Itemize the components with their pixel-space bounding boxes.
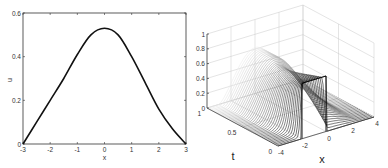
x-tick-label: 3 xyxy=(184,146,188,153)
y-tick-label: 0.4 xyxy=(12,53,21,60)
t-tick-label: 0.5 xyxy=(227,129,236,136)
left-line-plot: -3-2-10123 00.20.40.6 x u xyxy=(6,10,188,162)
mesh-line xyxy=(276,77,372,145)
x-tick-label: 1 xyxy=(130,146,134,153)
x-tick-label: 0 xyxy=(103,146,107,153)
z-tick-label: 0.8 xyxy=(196,45,205,52)
t-tick-label: 1 xyxy=(197,110,201,117)
x-tick-label: -2 xyxy=(302,142,308,149)
t-tick-label: 0 xyxy=(268,148,272,155)
x-tick-label: -1 xyxy=(74,146,80,153)
x-tick-label: -2 xyxy=(47,146,53,153)
x-tick-label: -3 xyxy=(20,146,26,153)
x-tick-label: 2 xyxy=(157,146,161,153)
z-tick-label: 0.6 xyxy=(196,60,205,67)
x-axis-label: x xyxy=(319,153,325,165)
left-x-label: x xyxy=(103,154,107,161)
x-tick-label: 2 xyxy=(351,127,355,134)
y-tick-label: 0 xyxy=(17,141,21,148)
right-3d-ticks: 00.20.40.60.8100.51-4-2024 xyxy=(196,31,379,157)
left-axes-box xyxy=(23,13,186,144)
z-tick-label: 0.2 xyxy=(196,90,205,97)
right-surface-plot: 00.20.40.60.8100.51-4-2024 t x xyxy=(196,5,379,165)
figure: -3-2-10123 00.20.40.6 x u 00.20.40.60.81… xyxy=(0,0,388,168)
t-axis-label: t xyxy=(231,150,234,162)
y-tick-label: 0.2 xyxy=(12,97,21,104)
x-tick-label: 0 xyxy=(327,135,331,142)
z-tick-label: 0.4 xyxy=(196,75,205,82)
left-y-label: u xyxy=(6,78,13,82)
y-tick-label: 0.6 xyxy=(12,10,21,17)
z-tick-label: 0 xyxy=(201,105,205,112)
x-tick-label: -4 xyxy=(278,149,284,156)
z-tick-label: 1 xyxy=(201,31,205,38)
x-tick-label: 4 xyxy=(375,120,379,127)
